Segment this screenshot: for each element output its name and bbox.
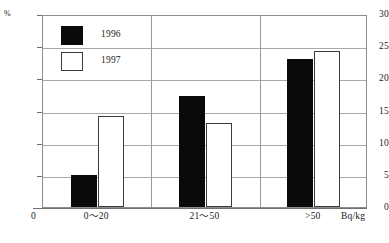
bar-1996-0〜20 — [71, 175, 97, 207]
x-axis-label-0: 0〜20 — [56, 211, 136, 221]
bar-1997-21〜50 — [206, 123, 232, 207]
legend-swatch-1997-icon — [61, 52, 83, 71]
gridline — [43, 48, 366, 49]
bar-1997-0〜20 — [98, 116, 124, 207]
bar-1996->50 — [287, 59, 313, 207]
x-axis-label-1: 21〜50 — [165, 211, 245, 221]
category-separator — [151, 16, 152, 207]
bar-1996-21〜50 — [179, 96, 205, 207]
y-axis-unit-label: % — [4, 9, 11, 18]
x-axis-unit-label: Bq/kg — [341, 211, 365, 221]
x-axis-origin-label: 0 — [31, 211, 36, 221]
bar-1997->50 — [314, 51, 340, 207]
x-axis-line — [33, 208, 367, 209]
legend-label-1996: 1996 — [101, 29, 121, 40]
legend-label-1997: 1997 — [101, 55, 121, 66]
legend-swatch-1996-icon — [61, 26, 83, 45]
bar-chart: % 051015202530 1996 1997 0 0〜2021〜50>50 … — [0, 0, 389, 243]
plot-area: 1996 1997 — [42, 15, 367, 208]
category-separator — [260, 16, 261, 207]
